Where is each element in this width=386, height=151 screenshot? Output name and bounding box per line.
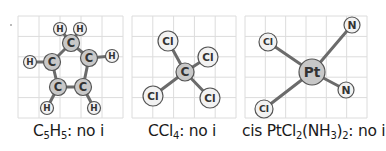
atom-c: C xyxy=(81,50,98,67)
caption-ccl4: CCl4: no i xyxy=(148,122,216,141)
atom-c: C xyxy=(44,54,61,71)
panel-c5h5: CCCCCHHHHHH xyxy=(18,16,123,118)
svg-text:C: C xyxy=(67,36,75,50)
svg-text:Pt: Pt xyxy=(304,64,321,80)
svg-text:Cl: Cl xyxy=(204,92,215,104)
svg-text:Cl: Cl xyxy=(147,90,158,102)
svg-text:C: C xyxy=(181,65,190,79)
svg-text:Cl: Cl xyxy=(259,103,269,114)
atom-n: N xyxy=(338,82,354,98)
svg-text:H: H xyxy=(90,103,97,113)
atom-cl: Cl xyxy=(255,100,273,118)
atom-c: C xyxy=(50,79,67,96)
svg-text:H: H xyxy=(26,57,33,67)
atom-cl: Cl xyxy=(259,33,277,51)
panel-cis-ptcl2nh3: PtClClNN xyxy=(245,16,367,118)
svg-text:H: H xyxy=(56,24,63,34)
svg-text:C: C xyxy=(54,80,62,94)
atom-cl: Cl xyxy=(200,88,220,108)
svg-text:Cl: Cl xyxy=(202,51,213,63)
atom-cl: Cl xyxy=(198,47,218,67)
atom-h: H xyxy=(54,23,67,36)
atom-cl: Cl xyxy=(158,31,178,51)
atom-c: C xyxy=(63,35,80,52)
atom-cl: Cl xyxy=(143,86,163,106)
svg-text:Cl: Cl xyxy=(263,36,273,47)
svg-text:N: N xyxy=(347,19,356,32)
svg-text:N: N xyxy=(341,84,350,97)
svg-text:Cl: Cl xyxy=(162,35,173,47)
atom-h: H xyxy=(24,56,37,69)
svg-text:C: C xyxy=(85,51,93,65)
svg-text:C: C xyxy=(79,80,87,94)
atom-c: C xyxy=(75,79,92,96)
atom-pt: Pt xyxy=(299,59,325,85)
atom-c: C xyxy=(176,63,194,81)
svg-text:H: H xyxy=(108,51,115,61)
atom-n: N xyxy=(344,17,360,33)
atom-h: H xyxy=(88,102,101,115)
atom-h: H xyxy=(41,102,54,115)
svg-text:H: H xyxy=(76,24,83,34)
atom-h: H xyxy=(106,50,119,63)
atom-h: H xyxy=(74,23,87,36)
caption-cis-ptcl2nh3: cis PtCl2(NH3)2: no i xyxy=(242,122,385,141)
caption-c5h5: C5H5: no i xyxy=(33,122,104,141)
panel-ccl4: CClClClCl xyxy=(132,16,236,118)
svg-text:C: C xyxy=(48,55,56,69)
svg-text:H: H xyxy=(43,103,50,113)
